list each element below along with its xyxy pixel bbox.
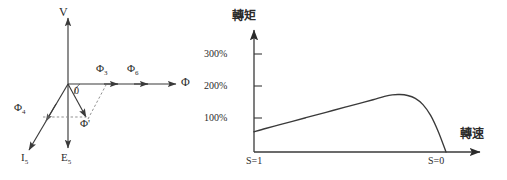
phasor-diagram-svg (0, 0, 232, 180)
vector-label-i5-sub: 5 (25, 158, 29, 166)
chart-ytick-label-300: 300% (204, 49, 227, 59)
axis-label-v: V (59, 6, 68, 18)
axis-label-phi: Φ (181, 76, 190, 88)
chart-x-axis-title: 轉速 (460, 128, 484, 140)
torque-speed-panel: 轉矩 轉速 300% 200% 100% S=1 S=0 (232, 0, 507, 180)
torque-speed-svg (232, 0, 507, 180)
vector-label-phi-4-sub: 4 (22, 108, 26, 116)
figure-root: V Φ 0 Φ3 Φ6 Φ4 Φ' I5 E5 (0, 0, 507, 180)
torque-curve-path (254, 94, 446, 152)
construction-line-phi-prime-to-phi3 (88, 85, 106, 119)
vector-label-phi-3-sub: 3 (104, 69, 108, 77)
vector-label-e5-sub: 5 (68, 158, 72, 166)
vector-label-e5-base: E (61, 151, 68, 163)
vector-label-phi-6-base: Φ (127, 62, 135, 74)
vector-label-phi-3: Φ3 (96, 63, 108, 77)
vector-label-phi-4: Φ4 (14, 102, 26, 116)
chart-ytick-label-100: 100% (204, 113, 227, 123)
vector-label-phi-4-base: Φ (14, 101, 22, 113)
chart-xtick-label-s0: S=0 (428, 156, 444, 166)
vector-label-phi-prime: Φ' (80, 118, 90, 129)
vector-label-phi-prime-base: Φ (80, 117, 88, 129)
chart-ytick-label-200: 200% (204, 81, 227, 91)
vector-label-phi-6: Φ6 (127, 63, 139, 77)
chart-y-axis-title: 轉矩 (232, 10, 256, 22)
vector-label-i5: I5 (21, 152, 28, 166)
angle-label-theta: 0 (74, 86, 79, 96)
vector-phi-4-arrow (46, 104, 56, 121)
vector-label-e5: E5 (61, 152, 71, 166)
phasor-diagram-panel: V Φ 0 Φ3 Φ6 Φ4 Φ' I5 E5 (0, 0, 232, 180)
chart-xtick-label-s1: S=1 (246, 156, 262, 166)
vector-label-phi-6-sub: 6 (135, 69, 139, 77)
vector-label-phi-prime-mark: ' (88, 117, 90, 129)
vector-label-phi-3-base: Φ (96, 62, 104, 74)
